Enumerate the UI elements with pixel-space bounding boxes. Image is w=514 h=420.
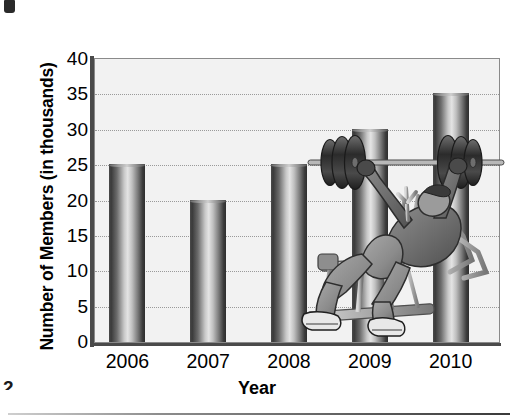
- x-tick-label: 2010: [429, 349, 472, 373]
- bar-2009: [352, 129, 388, 342]
- y-tick-label: 25: [67, 155, 88, 174]
- y-tick-label: 5: [77, 296, 88, 315]
- bar-2010: [433, 93, 469, 342]
- bar-chart: Number of Members (in thousands) 0510152…: [0, 0, 514, 400]
- x-tick-label: 2009: [348, 349, 391, 373]
- y-tick-label: 0: [77, 332, 88, 351]
- bottom-rule: [8, 413, 510, 415]
- corner-mark: [4, 0, 15, 13]
- y-tick-label: 30: [67, 119, 88, 138]
- y-tick-label: 35: [67, 84, 88, 103]
- x-axis-tick-labels: 20062007200820092010: [94, 349, 500, 375]
- bar-2007: [190, 200, 226, 343]
- x-tick-label: 2006: [106, 349, 149, 373]
- y-tick-label: 20: [67, 190, 88, 209]
- y-tick-label: 15: [67, 225, 88, 244]
- x-tick-label: 2007: [186, 349, 229, 373]
- y-tick-label: 10: [67, 261, 88, 280]
- bar-2008: [271, 164, 307, 342]
- y-tick-label: 40: [67, 49, 88, 68]
- plot-area: [94, 58, 500, 343]
- y-axis-tick-labels: 0510152025303540: [52, 52, 88, 348]
- bar-2006: [109, 164, 145, 342]
- x-axis-title: Year: [0, 378, 514, 399]
- page-number: 2: [3, 378, 14, 390]
- plot-inner: [95, 59, 499, 342]
- x-axis-line: [90, 343, 501, 346]
- x-tick-label: 2008: [267, 349, 310, 373]
